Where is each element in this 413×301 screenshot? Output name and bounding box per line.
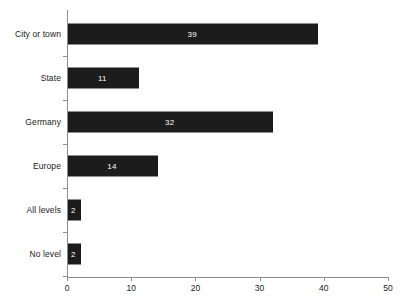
category-label: State bbox=[41, 73, 61, 83]
bar-value-label: 14 bbox=[107, 162, 116, 171]
x-axis-tick bbox=[388, 277, 389, 281]
category-label: No level bbox=[29, 249, 61, 259]
x-axis-tick bbox=[324, 277, 325, 281]
bar-row: City or town39 bbox=[0, 12, 413, 56]
category-label: All levels bbox=[26, 205, 61, 215]
bar-value-label: 39 bbox=[188, 30, 197, 39]
category-label: City or town bbox=[15, 29, 61, 39]
category-label: Europe bbox=[33, 161, 61, 171]
bar-value-label: 2 bbox=[71, 206, 76, 215]
category-label: Germany bbox=[25, 117, 61, 127]
bar-value-label: 32 bbox=[165, 118, 174, 127]
bar-value-label: 2 bbox=[71, 250, 76, 259]
bar-value-label: 11 bbox=[98, 74, 107, 83]
bar-row: Europe14 bbox=[0, 144, 413, 188]
x-axis-tick-label: 50 bbox=[383, 283, 392, 293]
x-axis-tick bbox=[260, 277, 261, 281]
bar-row: No level2 bbox=[0, 232, 413, 276]
x-axis-tick-label: 0 bbox=[65, 283, 70, 293]
bar-row: State11 bbox=[0, 56, 413, 100]
x-axis-tick-label: 40 bbox=[319, 283, 328, 293]
bar-row: All levels2 bbox=[0, 188, 413, 232]
x-axis-tick-label: 30 bbox=[255, 283, 264, 293]
x-axis-tick-label: 10 bbox=[126, 283, 135, 293]
bar-chart: City or town39State11Germany32Europe14Al… bbox=[0, 0, 413, 301]
x-axis-tick bbox=[131, 277, 132, 281]
bars-layer: City or town39State11Germany32Europe14Al… bbox=[0, 0, 413, 301]
bar-row: Germany32 bbox=[0, 100, 413, 144]
x-axis-tick bbox=[67, 277, 68, 281]
x-axis-tick bbox=[195, 277, 196, 281]
x-axis-tick-label: 20 bbox=[191, 283, 200, 293]
